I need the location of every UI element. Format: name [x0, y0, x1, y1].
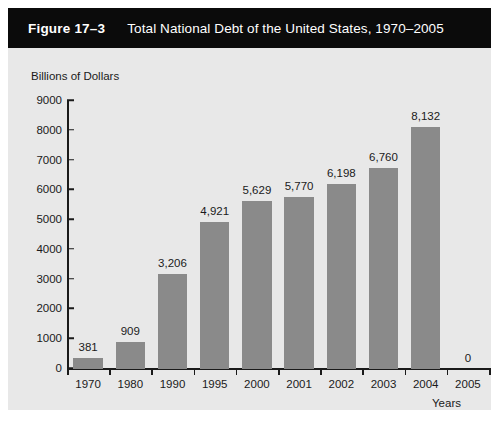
y-tick-label: 4000	[36, 243, 62, 255]
bar	[369, 168, 399, 369]
y-tick-label: 8000	[36, 124, 62, 136]
y-tick-label: 6000	[36, 183, 62, 195]
x-tick-mark	[320, 368, 322, 375]
x-tick-mark	[67, 368, 69, 375]
x-axis-title: Years	[432, 397, 461, 409]
figure-title-banner: Figure 17–3 Total National Debt of the U…	[8, 8, 491, 48]
x-tick-label: 1995	[202, 378, 228, 390]
bar-value-label: 8,132	[411, 110, 440, 122]
bar	[284, 197, 314, 369]
y-tick-label: 1000	[36, 332, 62, 344]
figure-panel: Figure 17–3 Total National Debt of the U…	[8, 8, 491, 410]
bar	[158, 274, 188, 369]
x-tick-label: 1990	[160, 378, 186, 390]
bar-value-label: 3,206	[158, 257, 187, 269]
y-tick-label: 0	[56, 362, 62, 374]
bar	[200, 222, 230, 369]
bar-value-label: 4,921	[200, 205, 229, 217]
bar	[116, 342, 146, 369]
bar-value-label: 5,629	[243, 184, 272, 196]
y-tick-label: 9000	[36, 94, 62, 106]
x-tick-mark	[405, 368, 407, 375]
figure-root: Figure 17–3 Total National Debt of the U…	[0, 0, 499, 425]
x-tick-mark	[362, 368, 364, 375]
bar	[73, 358, 103, 369]
x-tick-mark	[489, 368, 491, 375]
x-tick-mark	[447, 368, 449, 375]
plot-area: 9000800070006000500040003000200010000 38…	[8, 48, 491, 410]
x-tick-label: 2000	[244, 378, 270, 390]
y-tick-label: 5000	[36, 213, 62, 225]
bar-value-label: 5,770	[285, 180, 314, 192]
bar-value-label: 909	[121, 325, 140, 337]
x-tick-label: 2003	[371, 378, 397, 390]
x-tick-mark	[236, 368, 238, 375]
x-tick-label: 2005	[455, 378, 481, 390]
x-tick-label: 2001	[286, 378, 312, 390]
y-tick-label: 2000	[36, 302, 62, 314]
bar-value-label: 6,198	[327, 167, 356, 179]
bar-value-label: 6,760	[369, 151, 398, 163]
bar-value-label: 381	[79, 341, 98, 353]
x-tick-label: 1980	[118, 378, 144, 390]
y-tick-label: 7000	[36, 154, 62, 166]
bar-value-label: 0	[465, 352, 471, 364]
x-tick-mark	[109, 368, 111, 375]
figure-title-label: Total National Debt of the United States…	[127, 21, 444, 36]
x-tick-label: 2004	[413, 378, 439, 390]
bar-chart: Billions of Dollars 90008000700060005000…	[8, 48, 491, 410]
bar	[411, 127, 441, 369]
bar	[242, 201, 272, 369]
x-tick-label: 2002	[329, 378, 355, 390]
y-tick-label: 3000	[36, 273, 62, 285]
x-tick-label: 1970	[75, 378, 101, 390]
x-tick-mark	[151, 368, 153, 375]
bar	[327, 184, 357, 369]
figure-number-label: Figure 17–3	[28, 21, 105, 36]
x-tick-mark	[194, 368, 196, 375]
x-tick-mark	[278, 368, 280, 375]
